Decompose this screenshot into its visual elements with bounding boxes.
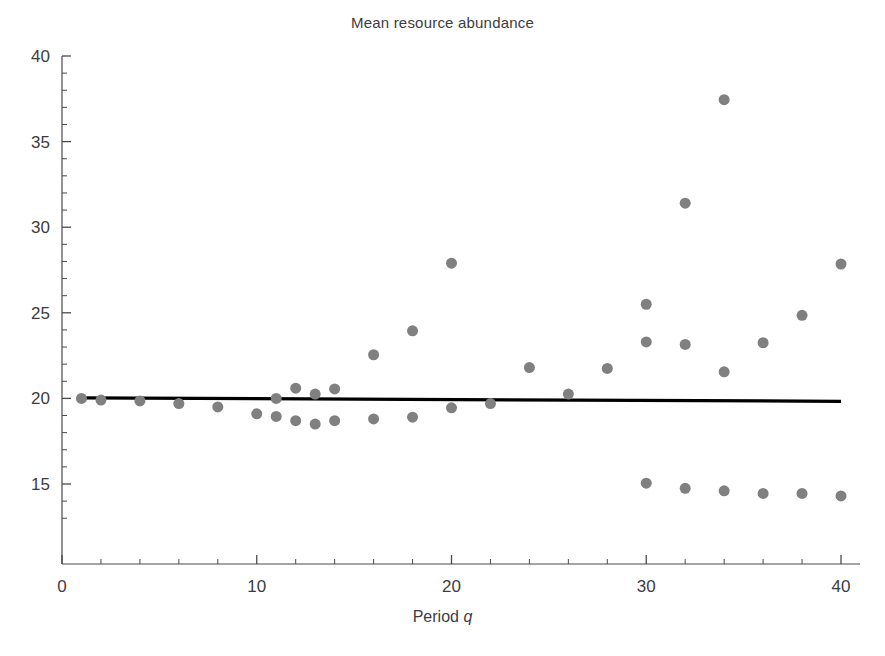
- data-point: [310, 419, 321, 430]
- x-tick-label: 0: [57, 577, 66, 596]
- data-point: [368, 349, 379, 360]
- data-point: [251, 408, 262, 419]
- y-tick-label: 25: [31, 304, 50, 323]
- data-point: [446, 402, 457, 413]
- data-points: [76, 94, 847, 501]
- data-point: [407, 325, 418, 336]
- y-tick-label: 40: [31, 47, 50, 66]
- data-point: [563, 389, 574, 400]
- data-point: [641, 478, 652, 489]
- x-tick-label: 20: [442, 577, 461, 596]
- y-tick-label: 30: [31, 218, 50, 237]
- data-point: [719, 485, 730, 496]
- data-point: [524, 362, 535, 373]
- data-point: [212, 401, 223, 412]
- x-axis-label: Period q: [0, 608, 885, 626]
- data-point: [680, 198, 691, 209]
- data-point: [641, 336, 652, 347]
- data-point: [836, 490, 847, 501]
- x-tick-label: 30: [637, 577, 656, 596]
- data-point: [446, 258, 457, 269]
- x-tick-label: 40: [832, 577, 851, 596]
- data-point: [602, 363, 613, 374]
- data-point: [641, 299, 652, 310]
- data-point: [485, 398, 496, 409]
- y-tick-label: 15: [31, 475, 50, 494]
- data-point: [271, 393, 282, 404]
- data-point: [758, 337, 769, 348]
- data-point: [836, 259, 847, 270]
- data-point: [680, 339, 691, 350]
- y-axis-ticks: 152025303540: [31, 47, 71, 518]
- data-point: [368, 413, 379, 424]
- data-point: [407, 412, 418, 423]
- data-point: [719, 366, 730, 377]
- data-point: [680, 483, 691, 494]
- scatter-plot: 010203040 152025303540: [0, 0, 885, 656]
- data-point: [329, 383, 340, 394]
- data-point: [290, 383, 301, 394]
- chart-figure: Mean resource abundance 010203040 152025…: [0, 0, 885, 656]
- trend-line-segment: [81, 398, 841, 401]
- data-point: [173, 398, 184, 409]
- data-point: [76, 393, 87, 404]
- data-point: [719, 94, 730, 105]
- trend-line: [81, 398, 841, 401]
- x-tick-label: 10: [247, 577, 266, 596]
- x-axis-label-text: Period: [413, 608, 459, 625]
- data-point: [290, 415, 301, 426]
- data-point: [310, 389, 321, 400]
- data-point: [134, 395, 145, 406]
- data-point: [329, 415, 340, 426]
- data-point: [271, 411, 282, 422]
- data-point: [797, 310, 808, 321]
- axes: [62, 56, 860, 564]
- data-point: [95, 395, 106, 406]
- x-axis-ticks: 010203040: [57, 555, 850, 596]
- y-tick-label: 20: [31, 389, 50, 408]
- data-point: [797, 488, 808, 499]
- y-tick-label: 35: [31, 133, 50, 152]
- data-point: [758, 488, 769, 499]
- x-axis-label-variable: q: [463, 608, 472, 625]
